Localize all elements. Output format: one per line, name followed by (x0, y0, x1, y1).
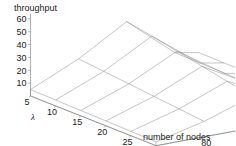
throughput-surface-chart: throughput number of nodes λ 10203040506… (0, 0, 235, 146)
y-tick-label: 10 (47, 107, 57, 117)
chart-canvas: throughput number of nodes λ 10203040506… (0, 0, 235, 146)
chart-axes (28, 14, 235, 146)
z-tick-label: 60 (16, 14, 26, 24)
z-tick-label: 30 (16, 53, 26, 63)
y-tick-label: 5 (24, 97, 29, 107)
z-tick-label: 40 (16, 40, 26, 50)
x-tick-label: 80 (201, 138, 211, 146)
y-tick-label: 25 (122, 137, 132, 146)
z-tick-label: 10 (16, 78, 26, 88)
z-axis-title: throughput (14, 3, 58, 13)
z-tick-label: 20 (16, 66, 26, 76)
y-tick-label: 15 (72, 117, 82, 127)
chart-labels: throughput number of nodes λ 10203040506… (14, 3, 235, 146)
z-tick-label: 50 (16, 27, 26, 37)
y-tick-label: 20 (97, 127, 107, 137)
y-axis-title: λ (30, 112, 35, 122)
surface-mesh (31, 22, 236, 146)
